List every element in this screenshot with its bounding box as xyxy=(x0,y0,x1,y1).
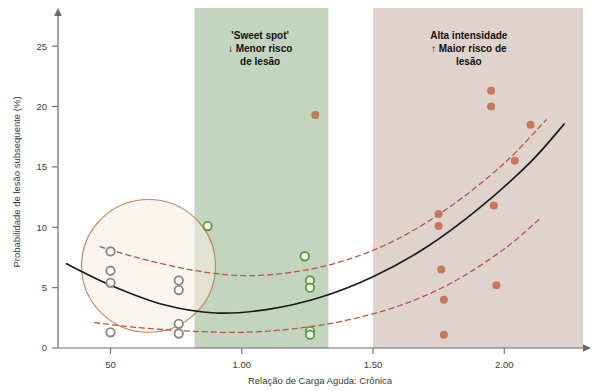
y-tick-label: 25 xyxy=(36,41,47,52)
data-point xyxy=(487,103,495,111)
sweet-spot-annotation-line: de lesão xyxy=(240,56,280,67)
x-tick-label: 1.00 xyxy=(233,359,252,370)
alta-intensidade-annotation-line: Alta intensidade xyxy=(430,30,508,41)
data-point xyxy=(306,283,314,291)
alta-intensidade-annotation-line: ↑ Maior risco de xyxy=(431,43,507,54)
data-point xyxy=(106,267,114,275)
data-point xyxy=(106,247,114,255)
destaque-carga-baixa xyxy=(82,200,216,333)
y-axis-arrow xyxy=(54,8,62,16)
y-tick-label: 0 xyxy=(42,342,47,353)
data-point xyxy=(106,328,114,336)
y-tick-label: 15 xyxy=(36,161,47,172)
x-tick-label: 50 xyxy=(105,359,116,370)
highlight-ellipse xyxy=(82,200,216,333)
data-point xyxy=(106,279,114,287)
data-point xyxy=(175,276,183,284)
x-axis-arrow xyxy=(583,344,591,352)
sweet-spot-annotation-line: ↓ Menor risco xyxy=(228,43,292,54)
data-point xyxy=(175,320,183,328)
data-point xyxy=(301,252,309,260)
data-point xyxy=(435,210,443,218)
y-axis-title: Probabilidade de lesão subsequente (%) xyxy=(11,96,22,267)
sweet-spot-annotation-line: 'Sweet spot' xyxy=(231,30,289,41)
y-tick-label: 10 xyxy=(36,222,47,233)
x-axis-ticks: 501.001.502.00 xyxy=(105,348,513,370)
data-point xyxy=(175,286,183,294)
data-point xyxy=(490,202,498,210)
data-point xyxy=(203,222,211,230)
data-point xyxy=(511,157,519,165)
x-tick-label: 2.00 xyxy=(495,359,514,370)
data-point xyxy=(440,296,448,304)
y-axis-ticks: 0510152025 xyxy=(36,41,58,354)
scatter-plot-svg: 0510152025 501.001.502.00 Probabilidade … xyxy=(0,0,593,391)
chart-figure: 0510152025 501.001.502.00 Probabilidade … xyxy=(0,0,593,391)
data-point xyxy=(306,331,314,339)
data-point xyxy=(527,121,535,129)
alta-intensidade-annotation-line: lesão xyxy=(456,56,482,67)
x-axis-title: Relação de Carga Aguda: Crônica xyxy=(248,375,393,386)
data-point xyxy=(175,329,183,337)
data-point xyxy=(435,222,443,230)
x-tick-label: 1.50 xyxy=(364,359,383,370)
data-point xyxy=(311,111,319,119)
y-tick-label: 20 xyxy=(36,101,47,112)
data-point xyxy=(492,281,500,289)
data-point xyxy=(487,87,495,95)
data-point xyxy=(440,331,448,339)
data-point xyxy=(437,266,445,274)
annotations-group: 'Sweet spot'↓ Menor riscode lesãoAlta in… xyxy=(228,30,508,67)
y-tick-label: 5 xyxy=(42,282,47,293)
